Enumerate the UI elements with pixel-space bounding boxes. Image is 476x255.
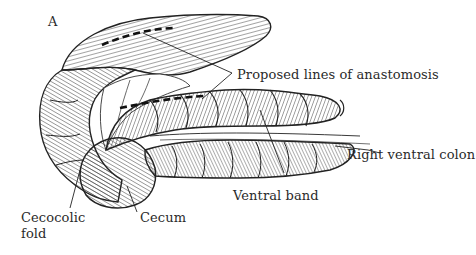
label-cecum: Cecum [140, 210, 186, 225]
dorsal-colon-upper [62, 15, 271, 75]
label-ventral-band: Ventral band [233, 188, 319, 203]
label-cecocolic-fold-line2: fold [21, 226, 47, 241]
ventral-colon [145, 133, 370, 178]
cecum [80, 138, 156, 208]
panel-letter: A [48, 14, 58, 29]
anatomy-figure: A Proposed lines of anastomosis Right ve… [0, 0, 476, 255]
label-cecocolic-fold-line1: Cecocolic [21, 210, 85, 225]
label-proposed-lines-of-anastomosis: Proposed lines of anastomosis [237, 67, 439, 82]
label-right-ventral-colon: Right ventral colon [347, 147, 475, 162]
